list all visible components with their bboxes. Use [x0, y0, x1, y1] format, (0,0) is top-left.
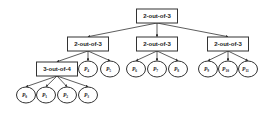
- leaf-node-P5: P5: [101, 61, 120, 77]
- edge-g4-P0: [26, 76, 57, 87]
- leaf-node-P10: P10: [219, 61, 238, 77]
- edge-g1-g4: [57, 51, 88, 62]
- leaf-node-P3: P3: [79, 87, 98, 103]
- gate-label: 2-out-of-3: [143, 41, 171, 47]
- gate-label: 2-out-of-3: [74, 41, 102, 47]
- gate-label: 3-out-of-4: [43, 66, 71, 72]
- edge-root-g1: [88, 23, 157, 37]
- gate-label: 2-out-of-3: [143, 13, 171, 19]
- edge-g2-P8: [157, 51, 178, 61]
- leaf-node-P7: P7: [148, 61, 167, 77]
- leaf-node-P4: P4: [79, 61, 98, 77]
- leaf-node-P6: P6: [127, 61, 146, 77]
- edge-g3-P9: [208, 51, 228, 61]
- gate-node-g2: 2-out-of-3: [137, 37, 178, 51]
- edge-root-g3: [157, 23, 228, 37]
- gate-node-g3: 2-out-of-3: [208, 37, 249, 51]
- leaf-node-P8: P8: [169, 61, 188, 77]
- leaf-node-P1: P1: [37, 87, 56, 103]
- gate-label: 2-out-of-3: [214, 41, 242, 47]
- leaf-node-P2: P2: [58, 87, 77, 103]
- leaf-node-P9: P9: [199, 61, 218, 77]
- gate-node-g1: 2-out-of-3: [68, 37, 109, 51]
- gate-node-g4: 3-out-of-4: [37, 62, 78, 76]
- leaf-node-P0: P0: [17, 87, 36, 103]
- gate-node-root: 2-out-of-3: [137, 9, 178, 23]
- fault-tree-diagram: 2-out-of-32-out-of-32-out-of-32-out-of-3…: [0, 0, 272, 120]
- edge-g3-P11: [228, 51, 248, 61]
- edge-g1-P5: [88, 51, 110, 61]
- leaf-node-P11: P11: [239, 61, 258, 77]
- nodes: 2-out-of-32-out-of-32-out-of-32-out-of-3…: [17, 9, 258, 103]
- edge-g2-P6: [136, 51, 157, 61]
